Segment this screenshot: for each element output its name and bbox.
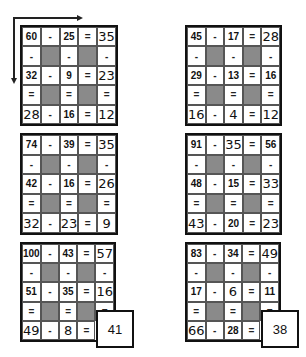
minus-sign: - — [206, 135, 225, 155]
number-cell: 17 — [224, 27, 243, 46]
number-cell: 49 — [22, 321, 41, 340]
number-cell: 23 — [60, 213, 79, 233]
minus-sign: - — [261, 155, 280, 175]
minus-sign: - — [22, 155, 41, 175]
shaded-cell — [206, 302, 224, 321]
shaded-cell — [242, 263, 260, 282]
number-cell: 43 — [187, 213, 206, 233]
number-cell: 25 — [60, 27, 79, 46]
shaded-cell — [78, 46, 97, 65]
minus-sign: - — [206, 321, 224, 340]
number-cell: 32 — [22, 66, 41, 85]
number-cell: 57 — [95, 244, 114, 263]
puzzle-grid-3: 74-39=35---42-16=26===32-23=9 — [20, 133, 118, 235]
minus-sign: - — [187, 263, 206, 282]
shaded-cell — [243, 155, 262, 175]
minus-sign: - — [206, 282, 224, 301]
number-cell: 16 — [60, 105, 79, 124]
number-cell: 74 — [22, 135, 41, 155]
equals-sign: = — [243, 135, 262, 155]
minus-sign: - — [206, 174, 225, 194]
number-cell: 23 — [261, 213, 280, 233]
number-cell: 32 — [22, 213, 41, 233]
number-cell: 100 — [22, 244, 41, 263]
shaded-cell — [78, 155, 97, 175]
answer-box: 41 — [96, 310, 134, 348]
shaded-cell — [41, 155, 60, 175]
minus-sign: - — [59, 263, 77, 282]
minus-sign: - — [187, 46, 206, 65]
number-cell: 39 — [60, 135, 79, 155]
equals-sign: = — [242, 321, 260, 340]
number-cell: 28 — [22, 105, 41, 124]
number-cell: 13 — [224, 66, 243, 85]
puzzle-grid-2: 45-17=28---29-13=16===16-4=12 — [185, 25, 282, 126]
equals-sign: = — [78, 66, 97, 85]
minus-sign: - — [224, 263, 242, 282]
equals-sign: = — [243, 213, 262, 233]
puzzle-grid-1: 60-25=35---32-9=23===28-16=12 — [20, 25, 118, 126]
minus-sign: - — [187, 155, 206, 175]
number-cell: 35 — [59, 282, 77, 301]
minus-sign: - — [206, 244, 224, 263]
shaded-cell — [41, 46, 60, 65]
minus-sign: - — [206, 66, 225, 85]
number-cell: 15 — [224, 174, 243, 194]
answer-box: 38 — [261, 310, 299, 348]
number-cell: 35 — [97, 27, 116, 46]
minus-sign: - — [22, 46, 41, 65]
minus-sign: - — [41, 174, 60, 194]
equals-sign: = — [77, 244, 95, 263]
number-cell: 12 — [97, 105, 116, 124]
number-cell: 17 — [187, 282, 206, 301]
equals-sign: = — [97, 194, 116, 214]
minus-sign: - — [261, 46, 280, 65]
minus-sign: - — [97, 46, 116, 65]
equals-sign: = — [22, 194, 41, 214]
minus-sign: - — [41, 66, 60, 85]
minus-sign: - — [60, 155, 79, 175]
equals-sign: = — [243, 105, 262, 124]
number-cell: 33 — [261, 174, 280, 194]
arrow-down-head-icon — [11, 78, 17, 84]
equals-sign: = — [97, 85, 116, 104]
number-cell: 6 — [224, 282, 242, 301]
shaded-cell — [77, 302, 95, 321]
puzzle-grid-4: 91-35=56---48-15=33===43-20=23 — [185, 133, 282, 235]
shaded-cell — [206, 155, 225, 175]
number-cell: 60 — [22, 27, 41, 46]
minus-sign: - — [95, 263, 114, 282]
equals-sign: = — [242, 244, 260, 263]
number-cell: 9 — [97, 213, 116, 233]
equals-sign: = — [243, 27, 262, 46]
number-cell: 12 — [261, 105, 280, 124]
number-cell: 23 — [97, 66, 116, 85]
equals-sign: = — [242, 282, 260, 301]
minus-sign: - — [224, 155, 243, 175]
minus-sign: - — [97, 155, 116, 175]
equals-sign: = — [224, 194, 243, 214]
shaded-cell — [41, 194, 60, 214]
number-cell: 56 — [261, 135, 280, 155]
number-cell: 51 — [22, 282, 41, 301]
arrow-down — [13, 17, 15, 79]
shaded-cell — [41, 85, 60, 104]
number-cell: 35 — [224, 135, 243, 155]
number-cell: 29 — [187, 66, 206, 85]
shaded-cell — [243, 85, 262, 104]
equals-sign: = — [22, 85, 41, 104]
shaded-cell — [206, 263, 224, 282]
equals-sign: = — [78, 105, 97, 124]
number-cell: 16 — [187, 105, 206, 124]
shaded-cell — [243, 46, 262, 65]
number-cell: 26 — [97, 174, 116, 194]
number-cell: 16 — [95, 282, 114, 301]
equals-sign: = — [59, 302, 77, 321]
number-cell: 4 — [224, 105, 243, 124]
shaded-cell — [41, 302, 59, 321]
number-cell: 66 — [187, 321, 206, 340]
equals-sign: = — [78, 213, 97, 233]
minus-sign: - — [41, 282, 59, 301]
shaded-cell — [78, 194, 97, 214]
equals-sign: = — [224, 302, 242, 321]
